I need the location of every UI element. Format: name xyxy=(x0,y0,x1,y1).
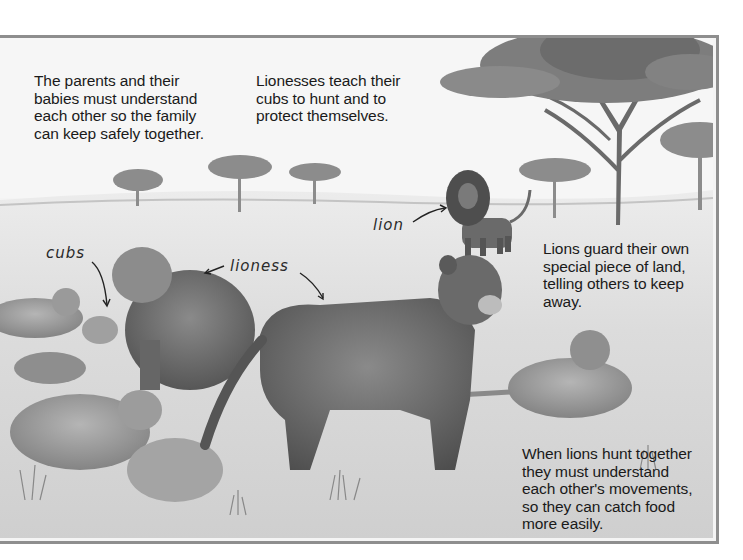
label-cubs: cubs xyxy=(46,244,85,262)
caption-teach: Lionesses teach their cubs to hunt and t… xyxy=(256,72,400,125)
label-lion: lion xyxy=(373,216,404,234)
caption-family: The parents and their babies must unders… xyxy=(34,72,204,142)
label-lioness: lioness xyxy=(230,257,289,275)
caption-territory: Lions guard their own special piece of l… xyxy=(543,240,689,310)
caption-hunt: When lions hunt together they must under… xyxy=(522,445,692,533)
